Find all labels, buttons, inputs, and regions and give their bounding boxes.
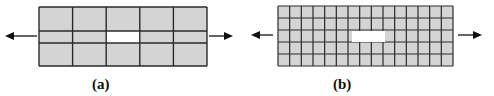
arrow-left-icon-b bbox=[251, 31, 273, 39]
panel-a-label: (a) bbox=[92, 76, 110, 93]
arrow-right-icon-b bbox=[458, 31, 482, 39]
panel-b-mesh bbox=[278, 6, 453, 66]
arrow-left-icon-a bbox=[5, 32, 37, 40]
panel-b-label: (b) bbox=[333, 76, 351, 93]
panel-a-mesh bbox=[39, 7, 207, 66]
figure-canvas bbox=[0, 0, 494, 96]
hole bbox=[106, 31, 140, 43]
hole bbox=[352, 31, 385, 42]
arrow-right-icon-a bbox=[209, 32, 233, 40]
